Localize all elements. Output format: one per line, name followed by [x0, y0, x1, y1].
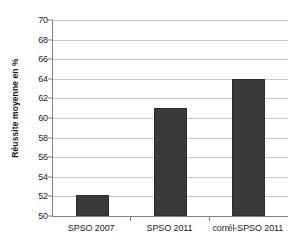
y-tick-label: 62 — [18, 93, 48, 103]
bar — [76, 195, 109, 216]
y-tick-label: 64 — [18, 74, 48, 84]
x-axis-label: corrél-SPSO 2011 — [212, 223, 283, 233]
y-tick-label: 54 — [18, 172, 48, 182]
y-tick-label: 52 — [18, 191, 48, 201]
y-tick-label: 60 — [18, 113, 48, 123]
gridline — [53, 59, 288, 60]
y-axis-title: Réussite moyenne en % — [6, 0, 24, 216]
y-tick-label: 58 — [18, 133, 48, 143]
x-axis-label: SPSO 2007 — [68, 223, 115, 233]
x-tick-mark — [130, 216, 131, 221]
x-axis-label: SPSO 2011 — [147, 223, 193, 233]
gridline — [53, 20, 288, 21]
gridline — [53, 40, 288, 41]
plot-inner — [53, 20, 288, 216]
plot-area — [52, 20, 288, 217]
y-tick-label: 50 — [18, 211, 48, 221]
bar — [232, 79, 265, 216]
y-tick-label: 66 — [18, 54, 48, 64]
x-tick-mark — [209, 216, 210, 221]
y-tick-label: 56 — [18, 152, 48, 162]
y-tick-label: 70 — [18, 15, 48, 25]
bar-chart: Réussite moyenne en % 706866646260585654… — [0, 0, 304, 251]
bar — [154, 108, 187, 216]
y-tick-label: 68 — [18, 35, 48, 45]
